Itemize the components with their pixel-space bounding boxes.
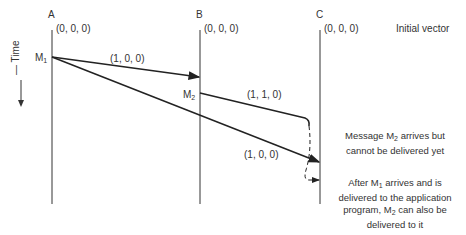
m1-label: M1 — [35, 52, 47, 66]
time-axis-label: — Time — [10, 41, 21, 75]
m1-vector-to-b: (1, 0, 0) — [110, 53, 144, 64]
process-c-initial: (0, 0, 0) — [324, 23, 358, 34]
initial-vector-label: Initial vector — [396, 23, 449, 34]
process-a-initial: (0, 0, 0) — [56, 23, 90, 34]
m1-to-c-arrow — [52, 57, 319, 162]
process-a-label: A — [48, 9, 55, 20]
process-c-label: C — [316, 9, 323, 20]
m2-label: M2 — [183, 89, 195, 103]
m2-vector: (1, 1, 0) — [247, 89, 281, 100]
note-m2-pending: Message M2 arrives but cannot be deliver… — [330, 130, 460, 157]
process-b-initial: (0, 0, 0) — [204, 23, 238, 34]
time-arrow-icon — [13, 80, 33, 110]
note-after-m1: After M1 arrives and is delivered to the… — [325, 177, 465, 231]
delay-dashed-curve — [305, 126, 319, 180]
m1-vector-to-c: (1, 0, 0) — [244, 149, 278, 160]
process-b-label: B — [196, 9, 203, 20]
